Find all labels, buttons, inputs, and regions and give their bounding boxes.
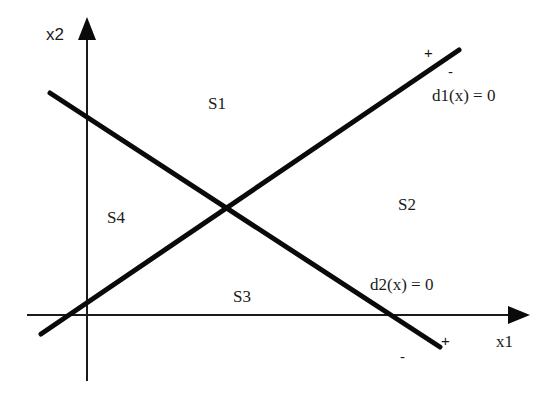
- d1-positive-sign: +: [424, 45, 433, 60]
- region-s4-label: S4: [107, 209, 125, 226]
- x1-axis-label: x1: [496, 333, 513, 350]
- decision-boundary-diagram: [0, 0, 555, 397]
- region-s3-label: S3: [233, 288, 251, 305]
- d1-negative-sign: -: [448, 64, 453, 79]
- region-s2-label: S2: [398, 196, 416, 213]
- x1-axis-arrowhead-icon: [508, 306, 530, 324]
- d2-negative-sign: -: [400, 349, 405, 364]
- d2-positive-sign: +: [441, 333, 450, 348]
- region-s1-label: S1: [208, 95, 226, 112]
- d1-equation-label: d1(x) = 0: [432, 87, 495, 104]
- x2-axis-label: x2: [46, 26, 64, 43]
- d2-equation-label: d2(x) = 0: [370, 276, 433, 293]
- x2-axis-arrowhead-icon: [78, 17, 96, 40]
